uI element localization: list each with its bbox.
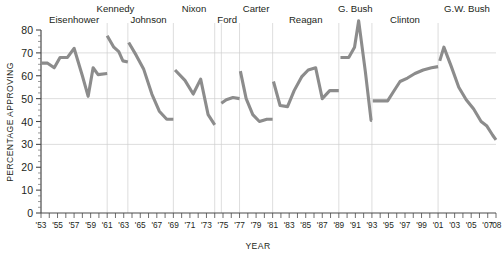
x-tick-label-'05: '05 [466,220,477,230]
x-axis-tick-labels: '53'55'57'59'61'63'65'67'69'71'73'75'77'… [36,220,502,230]
x-tick-label-'08: '08 [491,220,502,230]
president-label-johnson: Johnson [130,14,166,25]
x-tick-label-'89: '89 [333,220,344,230]
x-tick-label-'83: '83 [284,220,295,230]
president-label-carter: Carter [243,3,270,14]
x-tick-label-'03: '03 [449,220,460,230]
y-tick-label-0: 0 [27,207,33,219]
president-label-g-w-bush: G.W. Bush [444,3,490,14]
x-tick-label-'57: '57 [69,220,80,230]
x-tick-label-'87: '87 [317,220,328,230]
x-tick-label-'69: '69 [168,220,179,230]
president-label-kennedy: Kennedy [97,3,135,14]
x-tick-label-'59: '59 [85,220,96,230]
y-tick-label-50: 50 [21,93,33,105]
x-tick-label-'61: '61 [102,220,113,230]
x-tick-label-'91: '91 [350,220,361,230]
x-tick-label-'79: '79 [251,220,262,230]
president-label-ford: Ford [217,14,237,25]
x-tick-label-'97: '97 [400,220,411,230]
x-tick-label-'99: '99 [416,220,427,230]
y-tick-label-20: 20 [21,161,33,173]
x-tick-label-'81: '81 [267,220,278,230]
chart-canvas: 01020304050607080 '53'55'57'59'61'63'65'… [0,0,502,258]
x-tick-label-'01: '01 [433,220,444,230]
x-tick-label-'93: '93 [366,220,377,230]
approval-rating-chart: 01020304050607080 '53'55'57'59'61'63'65'… [0,0,502,258]
y-tick-label-40: 40 [21,116,33,128]
president-label-reagan: Reagan [289,14,323,25]
x-tick-label-'67: '67 [151,220,162,230]
president-label-eisenhower: Eisenhower [49,14,100,25]
president-label-g-bush: G. Bush [338,3,373,14]
president-label-clinton: Clinton [390,14,420,25]
x-tick-label-'65: '65 [135,220,146,230]
y-tick-label-60: 60 [21,70,33,82]
x-tick-label-'85: '85 [300,220,311,230]
x-tick-label-'71: '71 [184,220,195,230]
x-tick-label-'95: '95 [383,220,394,230]
x-tick-label-'55: '55 [52,220,63,230]
y-tick-label-70: 70 [21,47,33,59]
y-tick-label-30: 30 [21,138,33,150]
y-axis-ticks: 01020304050607080 [21,24,41,219]
y-tick-label-80: 80 [21,24,33,36]
x-tick-label-'53: '53 [36,220,47,230]
x-tick-label-'77: '77 [234,220,245,230]
x-tick-label-'63: '63 [118,220,129,230]
y-axis-title: PERCENTAGE APPROVING [5,62,15,182]
y-tick-label-10: 10 [21,184,33,196]
president-label-nixon: Nixon [182,3,207,14]
x-axis-title: YEAR [245,241,270,251]
x-tick-label-'73: '73 [201,220,212,230]
x-tick-label-'75: '75 [218,220,229,230]
